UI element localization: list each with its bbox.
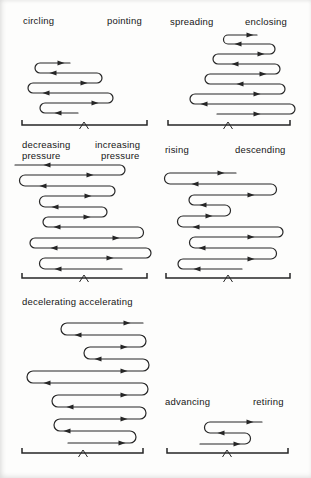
arrow-left-icon [55, 110, 62, 115]
gesture-label-decreasing-increasing-pressure-0: decreasing [22, 139, 70, 150]
arrow-right-icon [218, 170, 225, 175]
arrow-right-icon [247, 32, 254, 37]
arrow-right-icon [124, 320, 131, 325]
arrow-right-icon [107, 255, 114, 260]
panel-decreasing-increasing-pressure [15, 162, 151, 282]
arrow-left-icon [75, 332, 82, 337]
serpentine-path [165, 173, 284, 269]
arrow-right-icon [121, 344, 128, 349]
arrow-right-icon [254, 91, 261, 96]
gesture-label-advancing-retiring-1: retiring [253, 396, 284, 407]
arrow-right-icon [234, 441, 241, 446]
gesture-label-advancing-retiring-0: advancing [165, 396, 210, 407]
arrow-left-icon [235, 41, 242, 46]
panel-spreading-enclosing [168, 32, 295, 129]
gesture-label-circling-pointing-0: circling [23, 15, 54, 26]
gesture-label-decelerating-accelerating-1: accelerating [79, 296, 133, 307]
arrow-left-icon [40, 183, 47, 188]
arrow-right-icon [85, 193, 92, 198]
gesture-label-decreasing-increasing-pressure-1: pressure [22, 150, 61, 161]
arrow-right-icon [248, 256, 255, 261]
gesture-label-spreading-enclosing-0: spreading [170, 16, 214, 27]
panel-advancing-retiring [167, 419, 288, 457]
gesture-label-decreasing-increasing-pressure-2: increasing [95, 139, 140, 150]
arrow-right-icon [247, 419, 254, 424]
arrow-right-icon [121, 392, 128, 397]
arrow-right-icon [258, 51, 265, 56]
arrow-right-icon [248, 234, 255, 239]
arrow-right-icon [119, 440, 126, 445]
gesture-label-circling-pointing-1: pointing [107, 15, 142, 26]
panel-rising-descending [165, 170, 291, 282]
arrow-left-icon [95, 356, 102, 361]
arrow-left-icon [52, 204, 59, 209]
arrow-right-icon [113, 235, 120, 240]
arrow-right-icon [121, 416, 128, 421]
arrow-right-icon [121, 368, 128, 373]
gesture-label-decreasing-increasing-pressure-3: pressure [101, 150, 140, 161]
arrow-left-icon [194, 266, 201, 271]
scanned-figure-page: circlingpointingspreadingenclosingdecrea… [0, 0, 311, 478]
arrow-left-icon [43, 90, 50, 95]
arrow-right-icon [81, 80, 88, 85]
gesture-label-rising-descending-0: rising [165, 144, 189, 155]
arrow-right-icon [58, 60, 65, 65]
arrow-left-icon [50, 70, 57, 75]
arrow-left-icon [199, 245, 206, 250]
arrow-right-icon [206, 213, 213, 218]
arrow-left-icon [54, 224, 61, 229]
arrow-left-icon [201, 101, 208, 106]
gesture-label-decelerating-accelerating-0: decelerating [22, 296, 76, 307]
panel-circling-pointing [22, 60, 147, 129]
arrow-left-icon [55, 266, 62, 271]
arrow-right-icon [254, 111, 261, 116]
arrow-left-icon [200, 202, 207, 207]
arrow-left-icon [44, 380, 51, 385]
arrow-left-icon [67, 404, 74, 409]
arrow-right-icon [87, 172, 94, 177]
arrow-left-icon [193, 224, 200, 229]
arrow-left-icon [64, 428, 71, 433]
panel-decelerating-accelerating [22, 320, 149, 457]
gesture-label-spreading-enclosing-1: enclosing [245, 16, 287, 27]
serpentine-path [28, 63, 113, 113]
arrow-right-icon [248, 192, 255, 197]
arrow-right-icon [92, 100, 99, 105]
arrow-right-icon [84, 214, 91, 219]
serpentine-path [200, 422, 262, 444]
arrow-left-icon [192, 181, 199, 186]
arrow-left-icon [44, 162, 51, 167]
arrow-right-icon [260, 71, 267, 76]
arrow-left-icon [237, 81, 244, 86]
arrow-left-icon [218, 430, 225, 435]
arrow-left-icon [51, 245, 58, 250]
serpentine-path [15, 165, 151, 269]
gesture-label-rising-descending-1: descending [235, 144, 286, 155]
arrow-left-icon [232, 61, 239, 66]
